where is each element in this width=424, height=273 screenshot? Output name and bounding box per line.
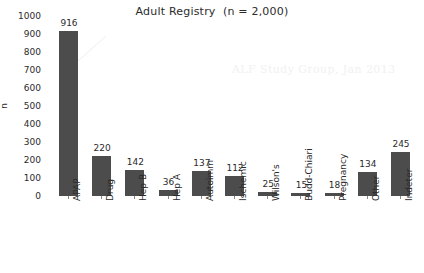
bar-chart-figure: Adult Registry (n = 2,000) ALF Study Gro… [0,0,424,273]
x-axis-category-label: Drug [106,179,115,201]
x-tick-mark [400,196,401,199]
x-tick-mark [134,196,135,199]
x-tick-mark [300,196,301,199]
x-axis-category-label: Indeter [405,169,414,201]
x-tick-mark [101,196,102,199]
x-tick-mark [201,196,202,199]
x-tick-mark [168,196,169,199]
x-axis-category-label: Wilson's [272,164,281,201]
x-tick-mark [267,196,268,199]
x-tick-mark [367,196,368,199]
bar-group[interactable]: 36 [154,16,184,196]
bar-group[interactable]: 220 [87,16,117,196]
x-tick-mark [334,196,335,199]
y-tick-label: 900 [0,30,41,39]
bar[interactable] [59,31,78,196]
x-axis-category-label: Other [372,175,381,201]
y-tick-label: 1000 [0,12,41,21]
x-axis-category-label: Pregnancy [339,154,348,201]
bar-group[interactable]: 134 [353,16,383,196]
bar-value-label: 916 [54,19,84,28]
y-tick-label: 500 [0,102,41,111]
x-axis-category-label: APAP [73,178,82,201]
y-tick-label: 400 [0,120,41,129]
x-tick-mark [68,196,69,199]
y-tick-label: 700 [0,66,41,75]
bar-value-label: 142 [120,158,150,167]
bar-value-label: 245 [386,140,416,149]
x-axis-category-label: Ischemic [239,161,248,201]
plot-area: 01002003004005006007008009001000 9162201… [48,16,424,196]
bar-group[interactable]: 142 [120,16,150,196]
x-axis-category-label: Autoimm [206,160,215,201]
y-tick-label: 300 [0,138,41,147]
y-tick-label: 0 [0,192,41,201]
y-tick-label: 800 [0,48,41,57]
bar-value-label: 220 [87,144,117,153]
y-tick-label: 100 [0,174,41,183]
x-axis-category-label: Hep A [173,174,182,201]
x-axis-category-label: Budd-Chiari [305,148,314,201]
bar-group[interactable]: 916 [54,16,84,196]
x-axis-category-label: Hep B [139,174,148,201]
bar-value-label: 134 [353,160,383,169]
y-tick-label: 200 [0,156,41,165]
y-tick-label: 600 [0,84,41,93]
x-tick-mark [234,196,235,199]
